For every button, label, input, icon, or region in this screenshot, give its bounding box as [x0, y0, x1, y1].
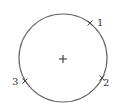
circle-diagram: 1 2 3 — [0, 0, 119, 107]
point-label: 3 — [12, 76, 18, 87]
point-label: 2 — [103, 77, 109, 88]
point-1: 1 — [88, 17, 104, 28]
center-cross-icon — [59, 55, 67, 63]
point-2: 2 — [100, 76, 110, 89]
point-3: 3 — [12, 76, 28, 87]
point-marker-icon — [88, 21, 93, 26]
point-label: 1 — [97, 17, 103, 28]
